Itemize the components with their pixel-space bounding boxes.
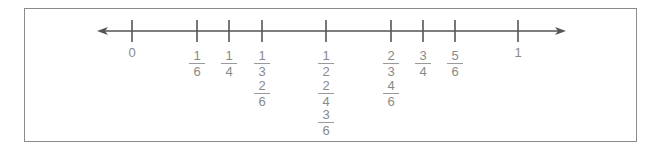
fraction-1-4: 14 (221, 49, 237, 78)
label-zero: 0 (128, 46, 135, 59)
fraction-3-4: 34 (415, 49, 431, 78)
fraction-2-3: 23 (383, 49, 399, 78)
fraction-1-6: 16 (189, 49, 205, 78)
label-one: 1 (514, 46, 521, 59)
fraction-3-6: 36 (318, 108, 334, 137)
fraction-5-6: 56 (447, 49, 463, 78)
fraction-4-6: 46 (383, 79, 399, 108)
fraction-2-4: 24 (318, 79, 334, 108)
fraction-2-6: 26 (254, 79, 270, 108)
fraction-1-3: 13 (254, 49, 270, 78)
fraction-1-2: 12 (318, 49, 334, 78)
